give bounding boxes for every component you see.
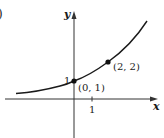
exponential-graph: ) x y 1 1 (0, 1) (2, 2)	[0, 0, 164, 138]
x-axis-label: x	[152, 100, 160, 113]
point-2-2-label: (2, 2)	[113, 61, 140, 72]
point-0-1-label: (0, 1)	[78, 82, 105, 93]
point-0-1	[71, 78, 76, 83]
y-axis-label: y	[63, 8, 72, 21]
y-axis-arrow-icon	[72, 11, 77, 19]
corner-fragment: )	[0, 7, 3, 21]
x-tick-label-1: 1	[89, 104, 95, 115]
point-2-2	[105, 59, 110, 64]
